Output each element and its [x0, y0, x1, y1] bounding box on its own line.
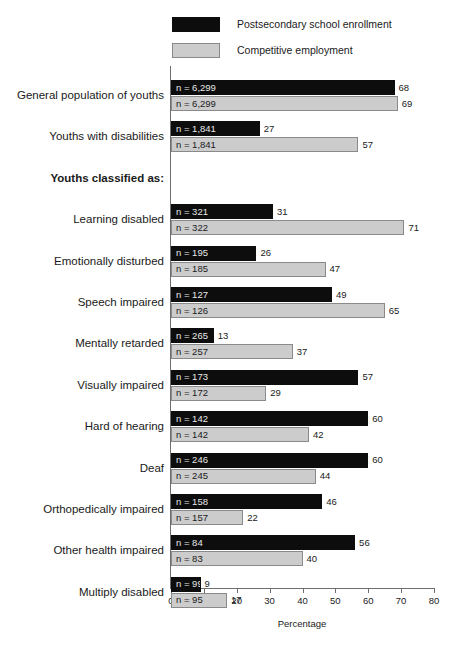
- bar-dark: n = 195: [171, 246, 256, 261]
- bar-sample-size-label: n = 172: [176, 389, 208, 399]
- bar-value-label: 68: [399, 83, 410, 93]
- bar-sample-size-label: n = 173: [176, 373, 208, 383]
- bar-sample-size-label: n = 257: [176, 347, 208, 357]
- bar-sample-size-label: n = 126: [176, 306, 208, 316]
- bar-dark: n = 127: [171, 287, 332, 302]
- bar-value-label: 22: [247, 513, 258, 523]
- bar-dark: n = 84: [171, 535, 355, 550]
- bar-value-label: 60: [372, 455, 383, 465]
- bar-value-label: 57: [362, 140, 373, 150]
- axis-tick-label: 60: [353, 596, 383, 606]
- bar-value-label: 46: [326, 497, 337, 507]
- category-label: Orthopedically impaired: [0, 504, 164, 516]
- bar-value-label: 69: [402, 99, 413, 109]
- bar-light: n = 157: [171, 510, 243, 525]
- bar-sample-size-label: n = 142: [176, 430, 208, 440]
- bar-sample-size-label: n = 185: [176, 264, 208, 274]
- bar-value-label: 29: [270, 388, 281, 398]
- category-label: Multiply disabled: [0, 587, 164, 599]
- bar-sample-size-label: n = 83: [176, 554, 203, 564]
- bar-value-label: 56: [359, 538, 370, 548]
- bar-value-label: 13: [218, 331, 229, 341]
- bar-value-label: 49: [336, 290, 347, 300]
- bar-value-label: 65: [389, 306, 400, 316]
- bar-dark: n = 173: [171, 370, 358, 385]
- bar-sample-size-label: n = 6,299: [176, 99, 216, 109]
- category-label: Youths with disabilities: [0, 131, 164, 143]
- category-label: Hard of hearing: [0, 421, 164, 433]
- category-label: General population of youths: [0, 90, 164, 102]
- bar-sample-size-label: n = 265: [176, 331, 208, 341]
- axis-tick-label: 30: [255, 596, 285, 606]
- bar-sample-size-label: n = 1,841: [176, 140, 216, 150]
- bar-sample-size-label: n = 246: [176, 455, 208, 465]
- axis-tick: [270, 588, 271, 593]
- bar-value-label: 37: [297, 347, 308, 357]
- bar-light: n = 6,299: [171, 96, 398, 111]
- bar-value-label: 57: [362, 372, 373, 382]
- bar-dark: n = 246: [171, 453, 368, 468]
- bar-value-label: 9: [205, 579, 210, 589]
- category-label: Speech impaired: [0, 297, 164, 309]
- bar-value-label: 44: [320, 471, 331, 481]
- bar-light: n = 1,841: [171, 137, 358, 152]
- bar-dark: n = 6,299: [171, 80, 395, 95]
- x-axis-title: Percentage: [170, 618, 434, 629]
- bar-chart-figure: Postsecondary school enrollmentCompetiti…: [0, 0, 454, 645]
- bar-value-label: 71: [408, 223, 419, 233]
- bar-sample-size-label: n = 95: [176, 596, 203, 606]
- axis-tick: [237, 588, 238, 593]
- axis-tick: [368, 588, 369, 593]
- axis-tick: [303, 588, 304, 593]
- category-label: Deaf: [0, 463, 164, 475]
- bar-dark: n = 99: [171, 577, 201, 592]
- bar-value-label: 31: [277, 207, 288, 217]
- bar-value-label: 40: [307, 554, 318, 564]
- category-group-heading: Youths classified as:: [0, 173, 164, 185]
- bar-sample-size-label: n = 157: [176, 513, 208, 523]
- bar-sample-size-label: n = 158: [176, 497, 208, 507]
- bar-sample-size-label: n = 322: [176, 223, 208, 233]
- bar-sample-size-label: n = 99: [176, 580, 201, 590]
- bar-sample-size-label: n = 142: [176, 414, 208, 424]
- bar-sample-size-label: n = 195: [176, 248, 208, 258]
- bar-value-label: 27: [264, 124, 275, 134]
- bar-light: n = 126: [171, 303, 385, 318]
- bar-light: n = 185: [171, 262, 326, 277]
- bar-light: n = 245: [171, 469, 316, 484]
- bar-value-label: 60: [372, 414, 383, 424]
- bar-light: n = 257: [171, 344, 293, 359]
- axis-tick-label: 50: [320, 596, 350, 606]
- bar-light: n = 322: [171, 220, 404, 235]
- category-label: Visually impaired: [0, 380, 164, 392]
- bar-light: n = 95: [171, 593, 227, 608]
- axis-tick: [434, 588, 435, 593]
- bar-dark: n = 142: [171, 411, 368, 426]
- bar-value-label: 26: [260, 248, 271, 258]
- category-label: Learning disabled: [0, 214, 164, 226]
- category-label: Mentally retarded: [0, 338, 164, 350]
- bar-sample-size-label: n = 6,299: [176, 83, 216, 93]
- bar-sample-size-label: n = 84: [176, 538, 203, 548]
- bar-value-label: 42: [313, 430, 324, 440]
- bar-dark: n = 1,841: [171, 121, 260, 136]
- plot-area: 01020304050607080 General population of …: [0, 0, 454, 645]
- bar-sample-size-label: n = 321: [176, 207, 208, 217]
- axis-tick-label: 70: [386, 596, 416, 606]
- axis-tick-label: 40: [288, 596, 318, 606]
- axis-tick: [335, 588, 336, 593]
- bar-value-label: 47: [330, 264, 341, 274]
- category-label: Emotionally disturbed: [0, 256, 164, 268]
- axis-tick: [401, 588, 402, 593]
- bar-sample-size-label: n = 245: [176, 471, 208, 481]
- bar-dark: n = 158: [171, 494, 322, 509]
- bar-dark: n = 321: [171, 204, 273, 219]
- category-label: Other health impaired: [0, 545, 164, 557]
- axis-tick-label: 80: [419, 596, 449, 606]
- bar-sample-size-label: n = 1,841: [176, 124, 216, 134]
- bar-light: n = 172: [171, 386, 266, 401]
- bar-dark: n = 265: [171, 328, 214, 343]
- bar-light: n = 142: [171, 427, 309, 442]
- bar-light: n = 83: [171, 551, 303, 566]
- bar-value-label: 17: [231, 595, 242, 605]
